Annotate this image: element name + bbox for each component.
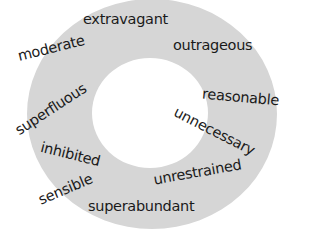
word-extravagant: extravagant xyxy=(83,12,168,27)
word-superabundant: superabundant xyxy=(88,199,194,214)
word-outrageous: outrageous xyxy=(173,38,252,53)
